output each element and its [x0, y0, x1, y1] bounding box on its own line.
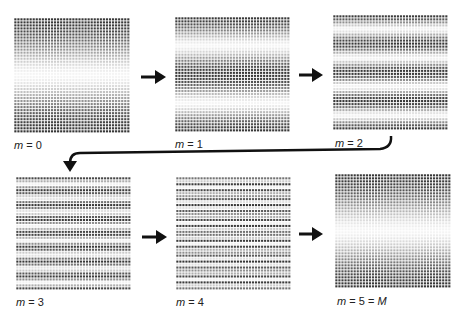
- arrow-right-icon: [312, 68, 323, 82]
- arrow-right-icon: [156, 230, 167, 244]
- wrap-arrow-line: [70, 136, 391, 163]
- arrow-right-icon: [155, 70, 166, 84]
- wrap-arrow-head-icon: [63, 161, 77, 172]
- arrow-right-icon: [312, 227, 323, 241]
- arrows-layer: [0, 0, 466, 320]
